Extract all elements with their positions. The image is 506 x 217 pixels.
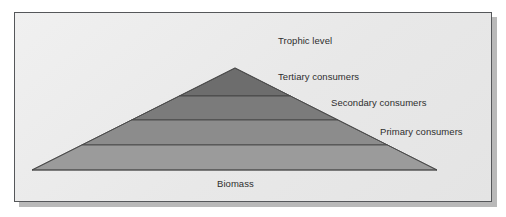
biomass-pyramid-figure: Trophic level Tertiary consumers Seconda… [0,0,506,217]
label-secondary-consumers: Secondary consumers [331,97,426,108]
label-primary-consumers: Primary consumers [380,126,463,137]
label-biomass: Biomass [217,178,254,189]
label-tertiary-consumers: Tertiary consumers [278,71,359,82]
label-trophic-level: Trophic level [278,35,332,46]
